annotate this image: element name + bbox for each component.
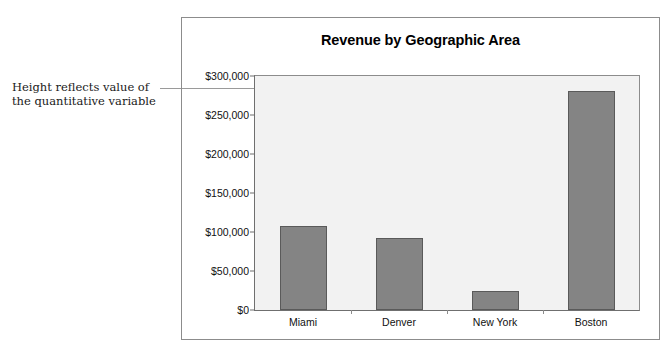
y-axis-label: $100,000 <box>205 226 255 238</box>
bar-miami[interactable] <box>280 226 327 310</box>
y-axis-label: $50,000 <box>211 265 255 277</box>
annotation-line-1: Height reflects value of <box>12 80 177 94</box>
y-axis-label: $0 <box>237 304 255 316</box>
x-axis-label-miami: Miami <box>289 316 317 328</box>
x-axis-tick-mark <box>351 310 352 314</box>
y-axis-label: $200,000 <box>205 148 255 160</box>
bar-boston[interactable] <box>568 91 615 310</box>
annotation-line-2: the quantitative variable <box>12 94 177 108</box>
chart-screenshot: Height reflects value of the quantitativ… <box>0 0 671 354</box>
chart-frame: Revenue by Geographic Area $0$50,000$100… <box>181 17 660 340</box>
annotation-text: Height reflects value of the quantitativ… <box>12 80 177 108</box>
x-axis-label-boston: Boston <box>575 316 608 328</box>
y-axis-label: $150,000 <box>205 187 255 199</box>
x-axis-tick-mark <box>447 310 448 314</box>
bar-denver[interactable] <box>376 238 423 310</box>
x-axis-label-new-york: New York <box>473 316 517 328</box>
bar-new-york[interactable] <box>472 291 519 310</box>
x-axis-tick-mark <box>543 310 544 314</box>
y-axis-label: $250,000 <box>205 109 255 121</box>
x-axis-label-denver: Denver <box>382 316 416 328</box>
y-axis-label: $300,000 <box>205 70 255 82</box>
plot-area: $0$50,000$100,000$150,000$200,000$250,00… <box>254 75 640 311</box>
chart-title: Revenue by Geographic Area <box>182 32 659 48</box>
